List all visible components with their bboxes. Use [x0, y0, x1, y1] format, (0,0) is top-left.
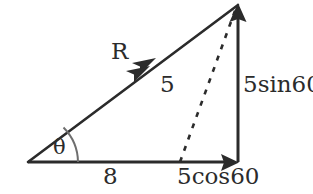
vector-diagram-canvas: R θ 5 8 5cos60 5sin60 [0, 0, 313, 194]
angle-label: θ [53, 137, 66, 158]
dashed-magnitude-label: 5 [160, 73, 175, 96]
base-magnitude-label: 8 [103, 165, 118, 188]
resultant-label: R [111, 40, 128, 63]
vertical-component-label: 5sin60 [243, 73, 313, 96]
dashed-line-icon [180, 8, 236, 162]
horizontal-component-label: 5cos60 [177, 165, 259, 188]
vector-diagram-svg [0, 0, 313, 194]
